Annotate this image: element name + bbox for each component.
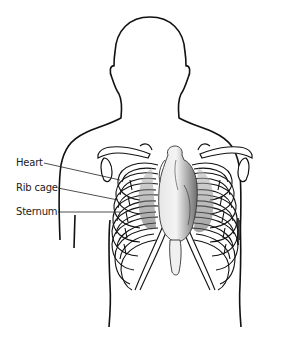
- label-rib-cage: Rib cage: [16, 183, 58, 193]
- sternum-bone: [170, 240, 181, 275]
- heart-organ: [159, 146, 198, 242]
- anatomy-figure: Heart Rib cage Sternum: [0, 0, 293, 342]
- label-heart: Heart: [16, 158, 43, 168]
- label-sternum: Sternum: [16, 207, 57, 217]
- torso-illustration: [0, 0, 293, 342]
